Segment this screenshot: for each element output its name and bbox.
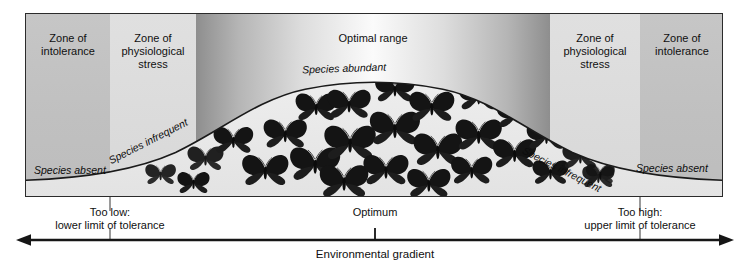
zone-label-line3: stress — [110, 58, 196, 71]
axis-marker-line1: Too high: — [550, 206, 730, 219]
tolerance-curve-panel: Zone of intolerance Zone of physiologica… — [25, 13, 723, 197]
figure-root: Zone of intolerance Zone of physiologica… — [0, 0, 750, 270]
axis-title-environmental-gradient: Environmental gradient — [0, 248, 750, 260]
zone-label-line1: Zone of — [640, 32, 723, 45]
arrowhead-left — [16, 234, 31, 246]
zone-label-line2: intolerance — [640, 45, 723, 58]
zone-label-left-intolerance: Zone of intolerance — [26, 32, 110, 58]
zone-label-line1: Optimal range — [196, 32, 550, 45]
axis-marker-line1: Too low: — [20, 206, 200, 219]
curve-label-right-absent: Species absent — [636, 162, 708, 174]
zone-label-line1: Zone of — [110, 32, 196, 45]
zone-label-right-intolerance: Zone of intolerance — [640, 32, 723, 58]
zone-label-line2: physiological — [550, 45, 640, 58]
zone-label-right-stress: Zone of physiological stress — [550, 32, 640, 71]
zone-label-line2: intolerance — [26, 45, 110, 58]
zone-label-left-stress: Zone of physiological stress — [110, 32, 196, 71]
zone-label-optimal-range: Optimal range — [196, 32, 550, 45]
zone-label-line2: physiological — [110, 45, 196, 58]
zone-label-line1: Zone of — [26, 32, 110, 45]
zone-label-line3: stress — [550, 58, 640, 71]
zone-label-line1: Zone of — [550, 32, 640, 45]
arrowhead-right — [719, 234, 734, 246]
curve-label-left-absent: Species absent — [34, 164, 106, 176]
axis-marker-optimum: Optimum — [305, 206, 445, 219]
